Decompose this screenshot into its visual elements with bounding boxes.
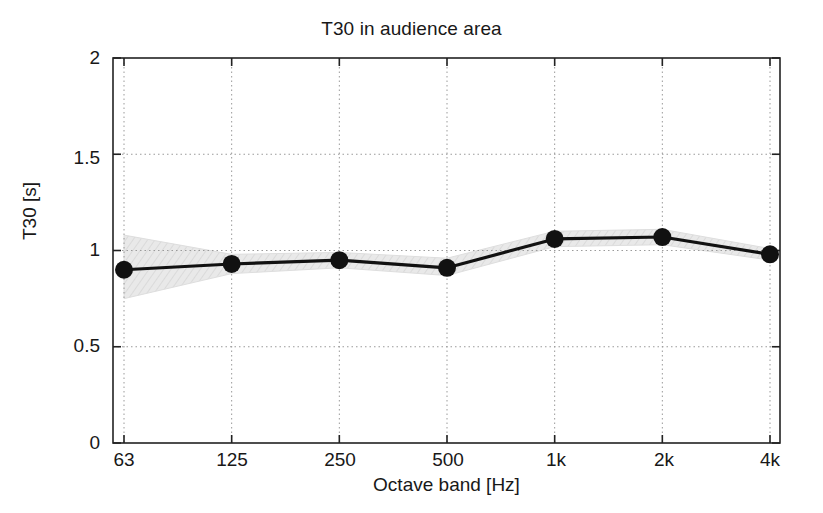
x-tick-label-1k: 1k	[516, 449, 596, 471]
data-point-4k	[761, 245, 779, 263]
x-tick-label-2k: 2k	[624, 449, 704, 471]
y-tick-label-1: 1	[40, 239, 100, 261]
data-point-250	[330, 251, 348, 269]
x-tick-label-63: 63	[84, 449, 164, 471]
y-tick-label-0p5: 0.5	[40, 335, 100, 357]
data-point-125	[223, 255, 241, 273]
x-tick-label-250: 250	[300, 449, 380, 471]
x-tick-label-4k: 4k	[730, 449, 810, 471]
data-point-1k	[546, 230, 564, 248]
x-axis-label: Octave band [Hz]	[113, 474, 780, 496]
gridlines	[113, 58, 780, 443]
plot-area	[0, 0, 823, 513]
y-tick-label-2: 2	[40, 47, 100, 69]
chart-figure: T30 in audience area T30 [s] 2 1.5 1 0.5…	[0, 0, 823, 513]
data-point-63	[115, 261, 133, 279]
x-tick-label-125: 125	[192, 449, 272, 471]
y-tick-label-1p5: 1.5	[40, 147, 100, 169]
x-tick-label-500: 500	[408, 449, 488, 471]
data-point-2k	[653, 228, 671, 246]
data-point-500	[438, 259, 456, 277]
